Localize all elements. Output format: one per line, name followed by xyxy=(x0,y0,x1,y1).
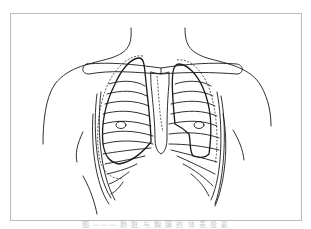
right-nipple-marker xyxy=(194,122,204,129)
thorax-illustration xyxy=(11,14,303,222)
sternum xyxy=(151,72,169,154)
left-lower-outline xyxy=(83,176,97,214)
left-nipple-marker xyxy=(116,122,126,129)
mediastinal-pleura xyxy=(157,76,163,132)
figure-caption: 图 ——— 肺 脏 与 胸 膜 的 体 表 投 影 xyxy=(0,221,311,229)
left-flank-outline xyxy=(76,132,83,162)
figure-frame xyxy=(10,13,302,221)
right-flank-outline xyxy=(233,130,244,160)
right-lung-outline xyxy=(172,64,211,157)
left-ribs xyxy=(93,81,153,204)
neck-left-outline xyxy=(43,28,131,144)
